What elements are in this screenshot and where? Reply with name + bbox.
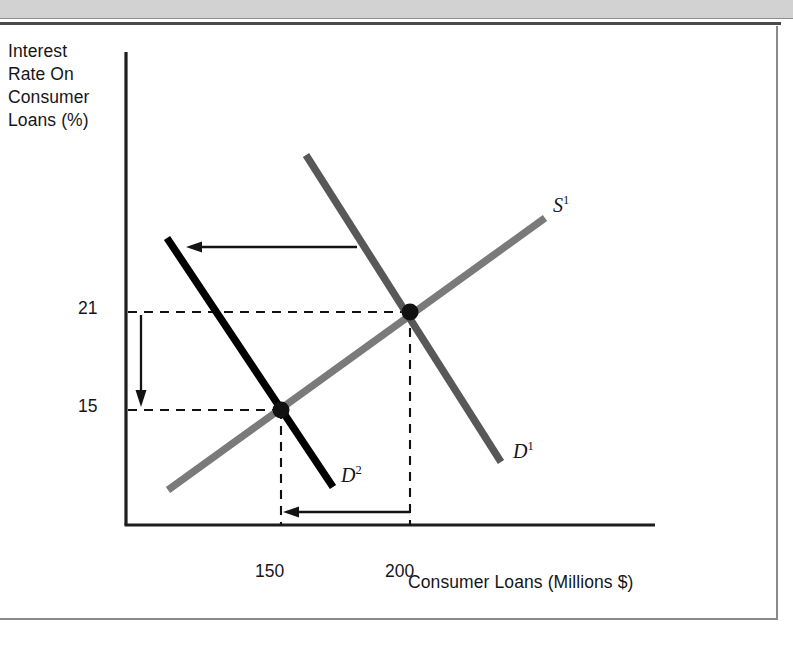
curve-label-d2: D2 [341, 464, 362, 487]
x-tick-label-150: 150 [255, 561, 284, 582]
curve-label-s1-base: S [553, 194, 563, 216]
y-tick-label-15: 15 [78, 396, 97, 417]
figure-top-rule [0, 22, 781, 25]
quantity-fall-arrow [283, 507, 410, 518]
curve-label-s1: S1 [553, 194, 569, 217]
y-axis-title-line-1: Interest [8, 40, 120, 63]
curve-label-d1-superscript: 1 [527, 439, 533, 453]
demand-shift-arrow [186, 242, 357, 253]
y-tick-label-21: 21 [78, 298, 97, 319]
page-top-gray-band [0, 0, 793, 19]
x-axis-title: Consumer Loans (Millions $) [408, 572, 633, 593]
y-axis-title-line-3: Consumer [8, 86, 120, 109]
interest-rate-fall-arrow [136, 315, 147, 407]
figure-page: Interest Rate On Consumer Loans (%) Cons… [0, 0, 793, 645]
supply-curve-s1 [168, 218, 545, 490]
demand-curve-d2 [167, 238, 333, 487]
y-axis-title-line-2: Rate On [8, 63, 120, 86]
curve-label-s1-superscript: 1 [563, 193, 569, 207]
curve-label-d1-base: D [513, 440, 527, 462]
curve-label-d2-base: D [341, 464, 355, 486]
x-tick-label-200: 200 [385, 561, 414, 582]
y-axis-title: Interest Rate On Consumer Loans (%) [8, 40, 120, 132]
equilibrium-point-initial [402, 304, 419, 321]
curve-label-d1: D1 [513, 440, 534, 463]
equilibrium-point-new [273, 402, 290, 419]
y-axis-title-line-4: Loans (%) [8, 109, 120, 132]
curve-label-d2-superscript: 2 [355, 463, 361, 477]
supply-demand-chart: Interest Rate On Consumer Loans (%) Cons… [0, 26, 782, 620]
